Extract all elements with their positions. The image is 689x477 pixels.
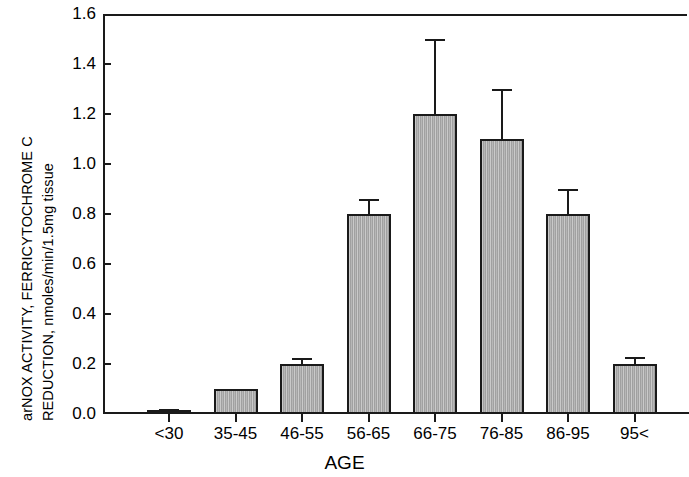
x-axis-tick-mark	[301, 414, 303, 422]
x-axis-tick-mark	[501, 414, 503, 422]
bar	[214, 389, 258, 414]
y-axis-tick-labels: 0.00.20.40.60.81.01.21.41.6	[52, 0, 96, 477]
error-bar-cap	[159, 409, 179, 411]
y-axis-tick-label: 0.2	[54, 355, 96, 372]
y-axis-title: arNOX ACTIVITY, FERRICYTOCHROME C REDUCT…	[0, 0, 56, 430]
error-bar-cap	[625, 357, 645, 359]
chart-figure: arNOX ACTIVITY, FERRICYTOCHROME C REDUCT…	[0, 0, 689, 477]
bar	[480, 139, 524, 414]
x-axis-tick-mark	[434, 414, 436, 422]
x-axis-tick-mark	[634, 414, 636, 422]
y-axis-tick-label: 0.8	[54, 205, 96, 222]
y-axis-tick-mark	[103, 213, 111, 215]
x-axis-tick-label: 95<	[590, 424, 680, 444]
error-bar-cap	[292, 358, 312, 360]
plot-area	[103, 14, 687, 414]
x-axis-line	[103, 412, 689, 414]
bar	[613, 364, 657, 414]
error-bar-stem	[434, 39, 436, 114]
x-axis-tick-mark	[368, 414, 370, 422]
y-axis-tick-mark	[103, 113, 111, 115]
x-axis-tick-mark	[168, 414, 170, 422]
error-bar-cap	[359, 199, 379, 201]
bar	[413, 114, 457, 414]
y-axis-title-line-1: arNOX ACTIVITY, FERRICYTOCHROME C	[19, 136, 35, 421]
error-bar-cap	[425, 39, 445, 41]
y-axis-tick-mark	[103, 63, 111, 65]
bar	[546, 214, 590, 414]
bar	[280, 364, 324, 414]
y-axis-tick-label: 0.0	[54, 405, 96, 422]
plot-top-border	[103, 14, 687, 16]
y-axis-tick-mark	[103, 263, 111, 265]
error-bar-cap	[558, 189, 578, 191]
y-axis-tick-label: 1.6	[54, 5, 96, 22]
x-axis-title: AGE	[0, 452, 689, 474]
error-bar-cap	[492, 89, 512, 91]
error-bar-stem	[368, 199, 370, 214]
y-axis-tick-label: 0.4	[54, 305, 96, 322]
y-axis-tick-label: 0.6	[54, 255, 96, 272]
y-axis-tick-label: 1.2	[54, 105, 96, 122]
x-axis-tick-mark	[235, 414, 237, 422]
y-axis-tick-mark	[103, 313, 111, 315]
y-axis-tick-mark	[103, 163, 111, 165]
error-bar-stem	[567, 189, 569, 214]
y-axis-tick-label: 1.4	[54, 55, 96, 72]
error-bar-stem	[501, 89, 503, 139]
bar	[347, 214, 391, 414]
y-axis-tick-mark	[103, 363, 111, 365]
y-axis-tick-label: 1.0	[54, 155, 96, 172]
x-axis-tick-mark	[567, 414, 569, 422]
